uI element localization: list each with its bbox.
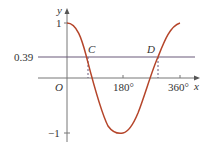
y-axis-label: y xyxy=(56,4,62,16)
point-c-label: C xyxy=(88,43,96,55)
y-tick-label-039: 0.39 xyxy=(14,51,34,63)
y-tick-label-minus-1: −1 xyxy=(48,127,60,139)
y-axis-arrow-icon xyxy=(65,8,70,14)
x-tick-label-360: 360° xyxy=(168,81,189,93)
y-tick-label-1: 1 xyxy=(56,17,62,29)
x-axis-label: x xyxy=(193,80,199,92)
cosine-graph: y 1 0.39 O −1 180° 360° x C D xyxy=(0,0,211,156)
point-d-label: D xyxy=(146,43,155,55)
x-tick-label-180: 180° xyxy=(113,81,134,93)
origin-label: O xyxy=(55,81,63,93)
